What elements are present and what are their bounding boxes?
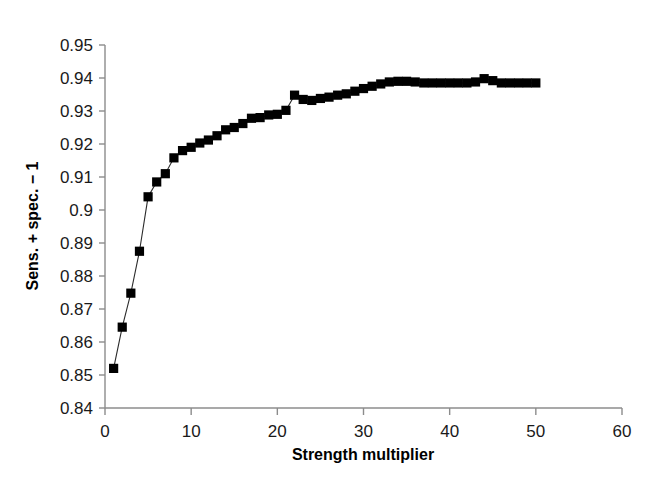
data-point-marker [221,125,230,134]
axis-group [105,45,622,408]
series-line [114,79,536,369]
data-point-marker [436,78,445,87]
data-point-marker [445,78,454,87]
data-point-marker [126,289,135,298]
x-tick-label: 20 [268,422,287,441]
data-point-marker [497,78,506,87]
data-point-marker [109,364,118,373]
y-tick-label: 0.92 [60,135,93,154]
data-point-marker [428,78,437,87]
data-point-marker [143,192,152,201]
chart-figure: 0.840.850.860.870.880.890.90.910.920.930… [0,0,664,490]
y-tick-label: 0.88 [60,267,93,286]
data-point-marker [376,79,385,88]
data-point-marker [152,177,161,186]
y-tick-label: 0.84 [60,399,93,418]
data-point-marker [471,77,480,86]
data-point-marker [488,76,497,85]
y-tick-label: 0.95 [60,36,93,55]
y-axis-ticks [99,45,105,408]
data-point-marker [204,135,213,144]
data-point-marker [264,110,273,119]
y-tick-label: 0.86 [60,333,93,352]
data-point-marker [531,78,540,87]
data-point-marker [178,146,187,155]
x-axis-ticks [105,408,622,415]
y-tick-label: 0.87 [60,300,93,319]
x-axis-tick-labels: 0102030405060 [100,422,631,441]
y-axis-title: Sens. + spec. − 1 [24,161,41,290]
x-tick-label: 10 [182,422,201,441]
data-point-marker [307,96,316,105]
x-tick-label: 60 [613,422,632,441]
data-point-marker [419,78,428,87]
data-point-marker [256,113,265,122]
series-markers [109,74,540,373]
x-axis-title: Strength multiplier [292,446,434,463]
data-point-marker [462,78,471,87]
data-point-marker [290,91,299,100]
y-axis-tick-labels: 0.840.850.860.870.880.890.90.910.920.930… [60,36,93,418]
data-point-marker [480,74,489,83]
x-tick-label: 40 [440,422,459,441]
data-point-marker [195,138,204,147]
data-point-marker [402,77,411,86]
x-tick-label: 50 [526,422,545,441]
data-point-marker [523,78,532,87]
data-point-marker [187,143,196,152]
data-point-marker [505,78,514,87]
data-point-marker [316,94,325,103]
y-tick-label: 0.94 [60,69,93,88]
data-point-marker [299,95,308,104]
data-point-marker [393,77,402,86]
data-point-marker [281,106,290,115]
data-point-marker [169,153,178,162]
data-point-marker [324,93,333,102]
data-point-marker [411,77,420,86]
x-tick-label: 30 [354,422,373,441]
data-point-marker [454,78,463,87]
y-tick-label: 0.9 [69,201,93,220]
y-tick-label: 0.85 [60,366,93,385]
data-point-marker [350,87,359,96]
data-point-marker [368,82,377,91]
line-chart: 0.840.850.860.870.880.890.90.910.920.930… [0,0,664,490]
data-point-marker [359,84,368,93]
data-point-marker [514,78,523,87]
data-point-marker [212,131,221,140]
data-point-marker [247,114,256,123]
data-point-marker [135,247,144,256]
x-tick-label: 0 [100,422,109,441]
data-point-marker [238,119,247,128]
data-point-marker [273,110,282,119]
y-tick-label: 0.89 [60,234,93,253]
data-point-marker [333,91,342,100]
data-point-marker [118,323,127,332]
y-tick-label: 0.91 [60,168,93,187]
data-point-marker [342,89,351,98]
data-point-marker [161,169,170,178]
data-point-marker [230,123,239,132]
data-point-marker [385,77,394,86]
y-tick-label: 0.93 [60,102,93,121]
